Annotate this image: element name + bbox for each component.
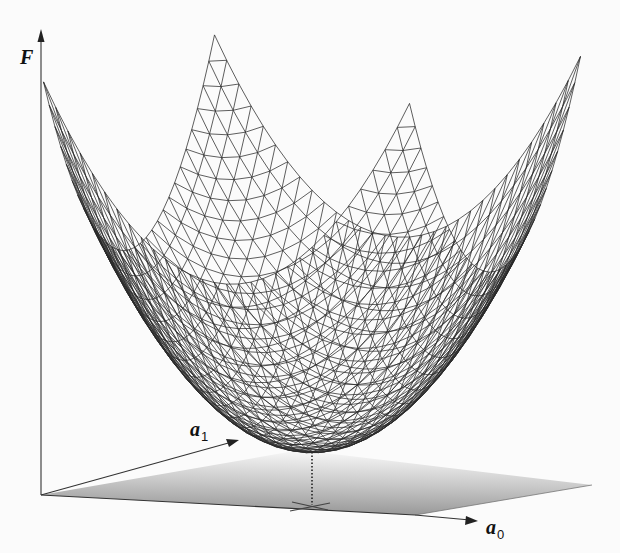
f-axis-arrow-icon [38,29,45,42]
mesh-line [186,145,276,158]
paraboloid-mesh [44,35,581,453]
mesh-line [209,60,227,61]
mesh-line [197,106,251,111]
f-axis-label-text: F [20,46,33,68]
mesh-line [68,107,569,452]
mesh-line [61,123,544,445]
a0-axis-arrow-icon [465,516,478,525]
a1-axis-arrow-icon [226,439,239,447]
a1-label-subscript: 1 [201,429,208,444]
paraboloid-figure [0,0,620,553]
a0-label-main: a [486,516,496,538]
mesh-line [227,237,398,453]
mesh-line [349,202,439,215]
f-axis-label: F [20,46,33,69]
mesh-line [169,190,312,221]
mesh-line [61,146,427,348]
mesh-line [373,168,427,173]
mesh-line [135,236,386,325]
a0-axis [415,515,470,520]
mesh-line [410,56,581,272]
a1-label-main: a [190,418,200,440]
mesh-line [49,80,568,450]
mesh-line [263,268,478,334]
a0-axis-label: a0 [486,516,504,539]
a1-axis-label: a1 [190,418,208,441]
mesh-line [56,83,575,453]
mesh-line [397,127,415,128]
mesh-line [92,126,263,342]
mesh-line [117,162,288,378]
a0-label-subscript: 0 [497,527,504,542]
